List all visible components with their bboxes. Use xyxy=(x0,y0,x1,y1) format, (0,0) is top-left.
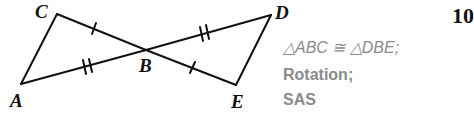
answer-congruence: △ABC ≅ △DBE; xyxy=(283,40,399,56)
point-label-e: E xyxy=(231,92,244,111)
point-label-a: A xyxy=(10,91,23,110)
segment-cb xyxy=(57,14,146,50)
segment-be xyxy=(146,50,236,85)
segment-ac xyxy=(21,14,57,84)
answer-congruence-text: △ABC ≅ △DBE; xyxy=(283,39,399,56)
problem-number: 10 xyxy=(452,5,474,27)
point-label-c: C xyxy=(35,2,48,21)
answer-postulate: SAS xyxy=(283,92,316,108)
point-label-b: B xyxy=(139,56,152,75)
segment-de xyxy=(236,15,271,85)
answer-transformation: Rotation; xyxy=(283,67,353,83)
point-label-d: D xyxy=(275,3,289,22)
